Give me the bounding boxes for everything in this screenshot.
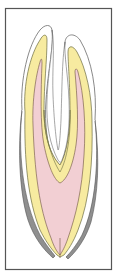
diagram-figure <box>0 0 117 275</box>
tooth-diagram <box>0 0 117 275</box>
